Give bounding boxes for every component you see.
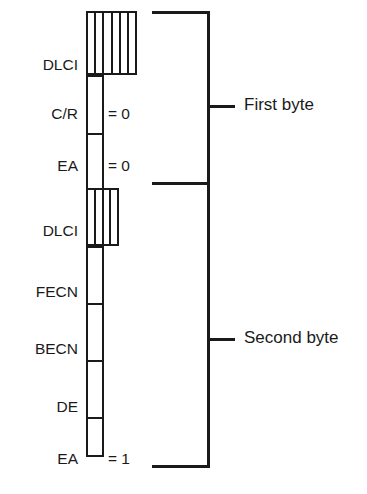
dlci-block-second-byte xyxy=(86,188,119,246)
field-label-de: DE xyxy=(0,398,78,416)
bit-divider-fecn-becn xyxy=(86,303,104,305)
field-label-fecn: FECN xyxy=(0,283,78,301)
field-value-ea-1: = 0 xyxy=(108,157,130,175)
byte-tick-second xyxy=(209,338,235,341)
dlci-block-first-byte xyxy=(86,11,137,75)
byte-bracket-spine xyxy=(207,11,210,468)
field-label-becn: BECN xyxy=(0,340,78,358)
dlci-bit-cell xyxy=(129,13,135,73)
dlci-bit-cell xyxy=(121,13,129,73)
byte-bracket-arm-top xyxy=(152,11,210,14)
bit-divider-dlci1-cr xyxy=(86,75,104,77)
byte-bracket-arm-middle xyxy=(152,182,210,185)
byte-bracket-arm-bottom xyxy=(152,465,210,468)
bit-divider-de-ea xyxy=(86,417,104,419)
dlci-bit-cell xyxy=(104,190,112,244)
dlci-bit-cell xyxy=(113,13,121,73)
bit-divider-becn-de xyxy=(86,360,104,362)
field-label-dlci-2: DLCI xyxy=(0,222,78,240)
bit-divider-dlci2-fecn xyxy=(86,246,104,248)
field-value-cr: = 0 xyxy=(108,105,130,123)
byte-label-first: First byte xyxy=(244,95,314,115)
bitfield-diagram: DLCI C/R EA DLCI FECN BECN DE EA = 0 = 0… xyxy=(0,0,367,494)
field-label-cr: C/R xyxy=(0,105,78,123)
byte-label-second: Second byte xyxy=(244,328,339,348)
dlci-bit-cell xyxy=(88,190,96,244)
bit-divider-cr-ea xyxy=(86,133,104,135)
field-value-ea-2: = 1 xyxy=(108,450,130,468)
dlci-bit-cell xyxy=(96,190,104,244)
dlci-bit-cell xyxy=(111,190,117,244)
dlci-bit-cell xyxy=(96,13,104,73)
field-label-ea-2: EA xyxy=(0,450,78,468)
byte-tick-first xyxy=(209,105,235,108)
field-label-dlci-1: DLCI xyxy=(0,56,78,74)
dlci-bit-cell xyxy=(104,13,112,73)
dlci-bit-cell xyxy=(88,13,96,73)
field-label-ea-1: EA xyxy=(0,157,78,175)
